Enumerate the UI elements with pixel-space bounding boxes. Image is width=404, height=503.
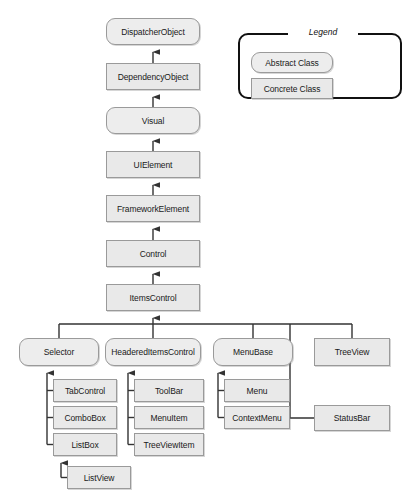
class-node-label: MenuBase bbox=[233, 347, 273, 357]
class-node-menuitem: MenuItem bbox=[134, 406, 204, 429]
class-node-label: UIElement bbox=[134, 160, 173, 170]
class-node-label: DependencyObject bbox=[118, 72, 189, 82]
class-node-headereditemscontrol: HeaderedItemsControl bbox=[105, 338, 201, 366]
class-node-contextmenu: ContextMenu bbox=[224, 406, 290, 429]
class-node-dispatcherobject: DispatcherObject bbox=[106, 18, 200, 45]
class-node-label: Selector bbox=[44, 347, 74, 357]
class-node-uielement: UIElement bbox=[106, 151, 200, 178]
class-node-label: ListView bbox=[84, 473, 115, 483]
class-node-listview: ListView bbox=[67, 466, 131, 489]
legend-item-concrete-label: Concrete Class bbox=[264, 84, 321, 94]
class-node-label: TabControl bbox=[65, 386, 105, 396]
class-node-label: MenuItem bbox=[151, 413, 188, 423]
class-node-label: Control bbox=[140, 249, 167, 259]
class-node-itemscontrol: ItemsControl bbox=[106, 284, 200, 311]
legend-item-abstract-label: Abstract Class bbox=[265, 58, 318, 68]
class-node-treeviewitem: TreeViewItem bbox=[134, 433, 204, 456]
class-node-visual: Visual bbox=[106, 107, 200, 134]
class-node-label: ComboBox bbox=[64, 413, 105, 423]
class-node-control: Control bbox=[106, 240, 200, 267]
class-node-combobox: ComboBox bbox=[53, 406, 117, 429]
legend-title: Legend bbox=[288, 27, 358, 37]
class-node-tabcontrol: TabControl bbox=[53, 379, 117, 402]
class-node-label: TreeViewItem bbox=[144, 440, 195, 450]
class-node-label: Menu bbox=[247, 386, 268, 396]
class-node-label: HeaderedItemsControl bbox=[111, 347, 195, 357]
class-node-selector: Selector bbox=[19, 338, 99, 366]
legend-item-concrete: Concrete Class bbox=[251, 78, 333, 99]
class-hierarchy-diagram: DispatcherObjectDependencyObjectVisualUI… bbox=[0, 0, 404, 503]
class-node-label: ItemsControl bbox=[130, 293, 177, 303]
class-node-label: ToolBar bbox=[155, 386, 183, 396]
class-node-toolbar: ToolBar bbox=[134, 379, 204, 402]
edge-bus-drop-statusbar bbox=[290, 324, 314, 418]
legend-item-abstract: Abstract Class bbox=[251, 52, 333, 73]
class-node-label: TreeView bbox=[335, 347, 370, 357]
class-node-treeview: TreeView bbox=[314, 338, 390, 366]
class-node-menu: Menu bbox=[224, 379, 290, 402]
class-node-frameworkelement: FrameworkElement bbox=[106, 195, 200, 222]
class-node-label: ContextMenu bbox=[232, 413, 281, 423]
class-node-statusbar: StatusBar bbox=[314, 405, 390, 431]
class-node-label: DispatcherObject bbox=[121, 27, 185, 37]
class-node-dependencyobject: DependencyObject bbox=[106, 63, 200, 90]
class-node-listbox: ListBox bbox=[53, 433, 117, 456]
class-node-label: StatusBar bbox=[334, 413, 370, 423]
class-node-label: FrameworkElement bbox=[117, 204, 189, 214]
class-node-label: ListBox bbox=[71, 440, 98, 450]
class-node-label: Visual bbox=[142, 116, 164, 126]
class-node-menubase: MenuBase bbox=[213, 338, 293, 366]
